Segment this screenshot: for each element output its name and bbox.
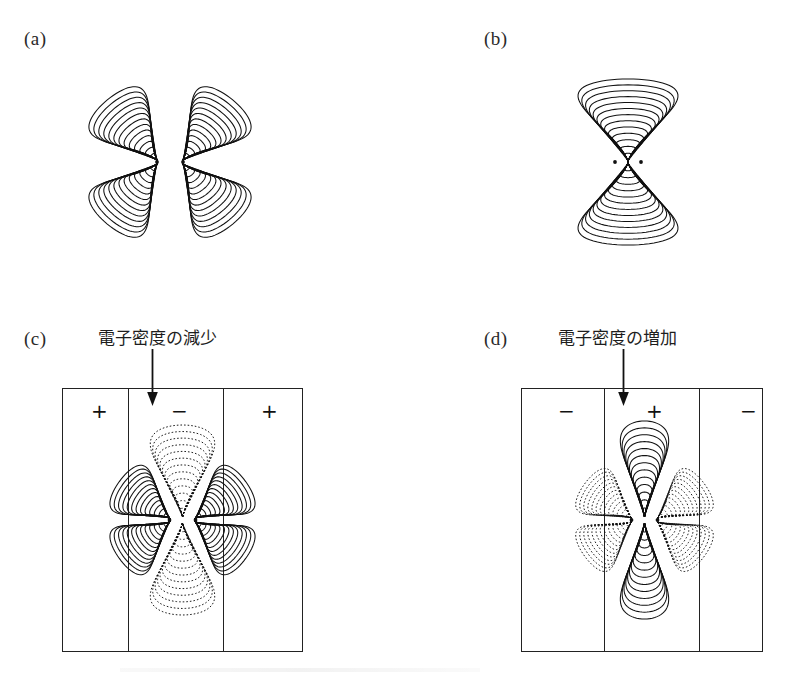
- contour-plot-b: [528, 62, 728, 262]
- panel-label-a: (a): [24, 28, 47, 50]
- panel-label-b: (b): [484, 28, 508, 50]
- contour-plot-d: [537, 400, 752, 640]
- panel-label-c: (c): [24, 328, 47, 350]
- annotation-c-electron-density-decrease: 電子密度の減少: [98, 324, 217, 349]
- contour-plot-a: [70, 62, 270, 262]
- scan-artifact: [120, 668, 480, 672]
- figure-canvas: (a) (b) (c) 電子密度の減少 + − +: [0, 0, 803, 676]
- panel-label-d: (d): [484, 328, 508, 350]
- annotation-d-electron-density-increase: 電子密度の増加: [558, 324, 677, 349]
- contour-plot-c: [75, 400, 290, 640]
